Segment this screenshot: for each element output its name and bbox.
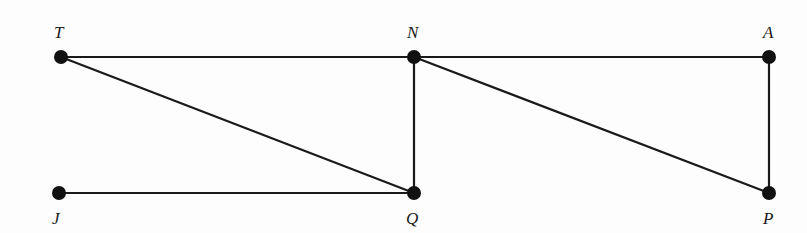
label-n: N: [406, 23, 420, 42]
graph-diagram: TNAJQP: [0, 0, 807, 233]
point-p: [762, 186, 776, 200]
label-q: Q: [406, 209, 418, 228]
diagram-canvas: TNAJQP: [0, 0, 807, 233]
point-j: [52, 186, 66, 200]
point-n: [407, 50, 421, 64]
point-t: [54, 50, 68, 64]
point-a: [762, 50, 776, 64]
label-t: T: [54, 23, 65, 42]
label-a: A: [762, 23, 774, 42]
segment-tq: [61, 57, 414, 193]
label-p: P: [762, 209, 773, 228]
edges-group: [59, 57, 769, 193]
segment-np: [414, 57, 769, 193]
label-j: J: [52, 209, 61, 228]
point-q: [407, 186, 421, 200]
